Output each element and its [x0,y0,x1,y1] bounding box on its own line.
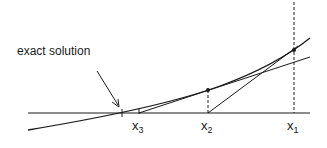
tangent-line-x2 [139,57,310,113]
x3-label-sub: 3 [139,125,144,135]
tangent-line-x1 [208,46,298,113]
x2-label: x2 [201,118,213,135]
x1-label-sub: 1 [294,125,299,135]
x3-label: x3 [132,118,144,135]
point-x1 [292,48,296,52]
x2-label-sub: 2 [208,125,213,135]
newton-method-diagram [0,0,327,148]
exact-solution-label: exact solution [17,44,90,58]
annotation-arrow [97,71,118,105]
point-x2 [206,88,210,92]
x1-label: x1 [287,118,299,135]
